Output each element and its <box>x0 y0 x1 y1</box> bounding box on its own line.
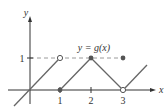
closed-point-2-1 <box>89 56 94 61</box>
graph-canvas: y x 1 2 3 1 y = g(x) <box>0 0 167 111</box>
function-label: y = g(x) <box>77 42 111 54</box>
y-axis-arrow-icon <box>28 16 32 22</box>
curve-segment-2 <box>60 58 121 90</box>
function-graph: y x 1 2 3 1 y = g(x) <box>0 0 167 111</box>
open-point-1-1 <box>57 55 62 60</box>
x-axis-arrow-icon <box>150 88 156 92</box>
x-tick-label-3: 3 <box>121 95 126 106</box>
closed-point-1-0 <box>58 88 63 93</box>
y-tick-label-1: 1 <box>20 53 25 64</box>
curve-segment-3 <box>125 65 147 88</box>
x-axis-label: x <box>158 84 164 95</box>
x-tick-label-1: 1 <box>58 95 63 106</box>
curve-segment-1 <box>14 60 58 106</box>
closed-point-3-1 <box>121 56 126 61</box>
open-point-3-0 <box>120 87 125 92</box>
y-axis-label: y <box>23 7 29 18</box>
x-tick-label-2: 2 <box>89 95 94 106</box>
